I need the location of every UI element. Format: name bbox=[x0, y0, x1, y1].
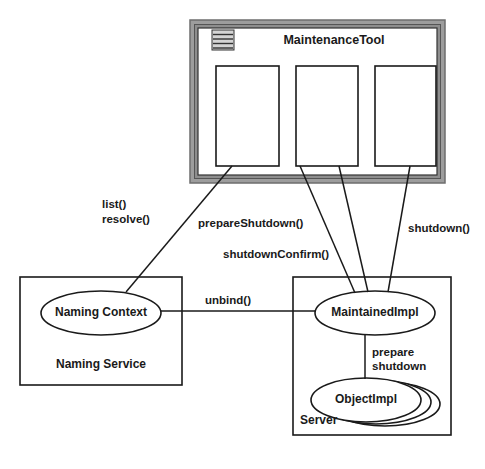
edge-label-prepare-shutdown: prepareShutdown() bbox=[198, 217, 303, 230]
naming-service-label: Naming Service bbox=[56, 358, 146, 371]
edge-label-prepare: prepare bbox=[372, 346, 414, 359]
edge-label-shutdown-word: shutdown bbox=[372, 360, 426, 373]
maintenance-tool-title: MaintenanceTool bbox=[283, 34, 384, 47]
edge-shutdown-confirm bbox=[339, 166, 368, 292]
server-label: Server bbox=[300, 414, 337, 427]
edge-prepare-shutdown bbox=[300, 166, 355, 293]
edge-label-unbind: unbind() bbox=[205, 294, 251, 307]
diagram-canvas: MaintenanceTool list() resolve() prepare… bbox=[0, 0, 485, 469]
edge-label-resolve: resolve() bbox=[102, 213, 150, 226]
tool-pane-3[interactable] bbox=[375, 66, 436, 166]
edge-shutdown bbox=[388, 166, 410, 292]
tool-pane-2[interactable] bbox=[296, 66, 358, 166]
maintained-impl-label: MaintainedImpl bbox=[331, 306, 418, 319]
edge-label-shutdown-confirm: shutdownConfirm() bbox=[223, 248, 329, 261]
window-menu-icon[interactable] bbox=[212, 30, 234, 50]
tool-pane-1[interactable] bbox=[216, 66, 279, 166]
edge-label-shutdown: shutdown() bbox=[408, 222, 470, 235]
edge-label-list: list() bbox=[102, 198, 126, 211]
object-impl-label: ObjectImpl bbox=[335, 393, 397, 406]
naming-context-label: Naming Context bbox=[55, 306, 147, 319]
